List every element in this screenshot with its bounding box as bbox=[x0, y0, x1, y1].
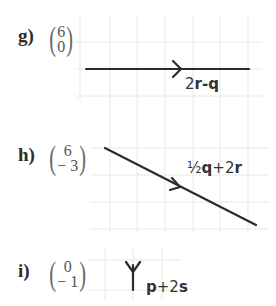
annotation-g: 2r-q bbox=[185, 75, 219, 93]
vector-bottom: − 3 bbox=[57, 158, 78, 173]
vector-i bbox=[126, 262, 140, 290]
column-vector-g: ( 6 0 ) bbox=[47, 22, 76, 56]
vector-top: 6 bbox=[57, 24, 65, 39]
vector-top: 0 bbox=[64, 259, 72, 274]
right-paren-icon: ) bbox=[80, 141, 87, 175]
diagram-canvas bbox=[0, 0, 276, 306]
right-paren-icon: ) bbox=[67, 22, 74, 56]
annotation-i: p+2s bbox=[146, 278, 188, 296]
item-label-i: i) bbox=[18, 260, 30, 282]
vector-top: 6 bbox=[64, 143, 72, 158]
left-paren-icon: ( bbox=[49, 257, 56, 291]
right-paren-icon: ) bbox=[80, 257, 87, 291]
grid-g bbox=[75, 15, 262, 100]
vector-bottom: − 1 bbox=[57, 274, 78, 289]
column-vector-h: ( 6 − 3 ) bbox=[47, 141, 89, 175]
item-label-h: h) bbox=[18, 144, 35, 166]
annotation-h: ½q+2r bbox=[187, 159, 242, 177]
left-paren-icon: ( bbox=[49, 22, 56, 56]
left-paren-icon: ( bbox=[49, 141, 56, 175]
column-vector-i: ( 0 − 1 ) bbox=[47, 257, 89, 291]
vector-bottom: 0 bbox=[57, 39, 65, 54]
item-label-g: g) bbox=[18, 25, 34, 47]
